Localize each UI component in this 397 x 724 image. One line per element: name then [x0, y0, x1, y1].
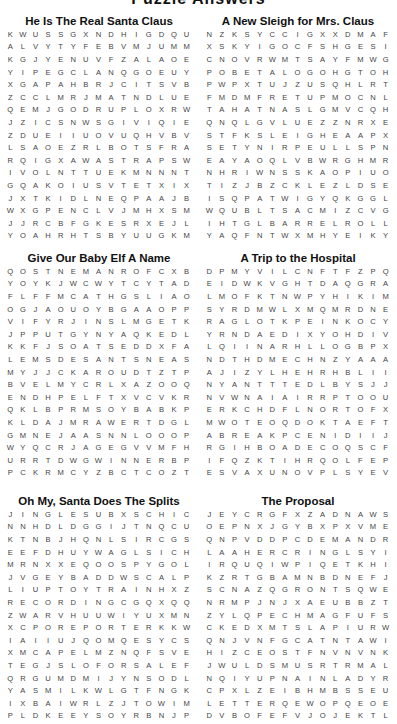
grid-cell: Q: [354, 584, 367, 597]
grid-cell: V: [228, 467, 241, 480]
grid-cell: L: [17, 41, 30, 54]
grid-cell: V: [379, 467, 392, 480]
grid-cell: Q: [316, 454, 329, 467]
grid-cell: W: [379, 621, 392, 634]
grid-cell: O: [266, 416, 279, 429]
grid-cell: R: [54, 441, 67, 454]
grid-cell: C: [117, 78, 130, 91]
grid-cell: Y: [54, 571, 67, 584]
grid-cell: L: [155, 91, 168, 104]
grid-cell: M: [17, 429, 30, 442]
grid-cell: N: [316, 353, 329, 366]
grid-cell: T: [180, 167, 193, 180]
grid-cell: B: [105, 141, 118, 154]
grid-cell: I: [67, 129, 80, 142]
grid-cell: O: [316, 66, 329, 79]
grid-cell: P: [42, 584, 55, 597]
grid-cell: H: [241, 353, 254, 366]
grid-cell: P: [29, 621, 42, 634]
grid-cell: W: [266, 303, 279, 316]
grid-cell: X: [253, 521, 266, 534]
grid-cell: X: [17, 204, 30, 217]
grid-cell: X: [253, 621, 266, 634]
grid-cell: Z: [4, 91, 17, 104]
grid-cell: N: [203, 596, 216, 609]
grid-cell: R: [316, 659, 329, 672]
grid-cell: H: [203, 647, 216, 660]
grid-cell: Q: [228, 230, 241, 243]
grid-cell: E: [203, 278, 216, 291]
grid-cell: C: [304, 204, 317, 217]
grid-cell: E: [216, 508, 229, 521]
grid-cell: T: [329, 416, 342, 429]
grid-cell: N: [253, 634, 266, 647]
grid-cell: O: [92, 621, 105, 634]
grid-cell: G: [29, 659, 42, 672]
grid-cell: L: [304, 341, 317, 354]
grid-cell: O: [155, 429, 168, 442]
grid-cell: C: [291, 533, 304, 546]
grid-cell: K: [180, 684, 193, 697]
grid-cell: D: [241, 303, 254, 316]
grid-cell: L: [316, 378, 329, 391]
grid-cell: A: [342, 416, 355, 429]
grid-cell: R: [54, 230, 67, 243]
grid-cell: D: [228, 278, 241, 291]
grid-cell: I: [155, 290, 168, 303]
grid-cell: X: [17, 192, 30, 205]
grid-cell: T: [241, 416, 254, 429]
grid-cell: R: [29, 454, 42, 467]
grid-cell: L: [241, 116, 254, 129]
grid-cell: M: [367, 154, 380, 167]
grid-cell: W: [67, 454, 80, 467]
grid-cell: L: [354, 366, 367, 379]
grid-cell: N: [279, 467, 292, 480]
grid-cell: H: [304, 684, 317, 697]
grid-cell: H: [367, 558, 380, 571]
grid-cell: D: [291, 441, 304, 454]
grid-cell: N: [342, 571, 355, 584]
grid-cell: V: [130, 116, 143, 129]
grid-cell: Y: [203, 230, 216, 243]
grid-cell: C: [117, 596, 130, 609]
grid-cell: M: [54, 290, 67, 303]
grid-cell: M: [180, 697, 193, 710]
grid-cell: J: [379, 429, 392, 442]
grid-cell: T: [17, 533, 30, 546]
grid-cell: S: [180, 634, 193, 647]
grid-cell: X: [329, 28, 342, 41]
grid-cell: E: [216, 521, 229, 534]
grid-cell: G: [54, 66, 67, 79]
grid-cell: V: [29, 41, 42, 54]
grid-cell: Q: [4, 404, 17, 417]
grid-cell: N: [203, 391, 216, 404]
grid-cell: A: [354, 129, 367, 142]
grid-cell: W: [80, 116, 93, 129]
grid-cell: A: [241, 584, 254, 597]
grid-cell: A: [304, 596, 317, 609]
grid-cell: A: [42, 697, 55, 710]
grid-cell: O: [155, 467, 168, 480]
grid-cell: F: [143, 684, 156, 697]
grid-cell: X: [316, 28, 329, 41]
grid-cell: B: [180, 265, 193, 278]
grid-cell: S: [130, 508, 143, 521]
grid-cell: C: [130, 278, 143, 291]
grid-cell: P: [203, 66, 216, 79]
grid-cell: Y: [143, 278, 156, 291]
grid-cell: L: [342, 454, 355, 467]
grid-cell: C: [168, 546, 181, 559]
grid-cell: E: [67, 558, 80, 571]
grid-cell: F: [279, 710, 292, 723]
grid-cell: F: [143, 265, 156, 278]
grid-cell: M: [29, 104, 42, 117]
grid-cell: M: [304, 230, 317, 243]
grid-cell: L: [4, 353, 17, 366]
grid-cell: M: [379, 290, 392, 303]
grid-cell: H: [54, 546, 67, 559]
grid-cell: U: [42, 328, 55, 341]
grid-cell: C: [168, 521, 181, 534]
grid-cell: E: [67, 621, 80, 634]
grid-cell: O: [105, 404, 118, 417]
grid-cell: M: [155, 441, 168, 454]
